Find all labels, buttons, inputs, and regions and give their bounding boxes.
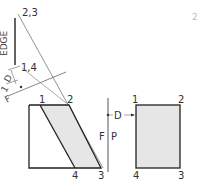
profile-dimension-d: D: [114, 110, 122, 121]
label-fold-f-aux: F: [3, 93, 12, 104]
fold-label-f: F: [99, 131, 105, 142]
label-1-4: 1,4: [21, 62, 37, 73]
front-label-1: 1: [39, 94, 45, 105]
cropped-label-fragment: 2: [192, 12, 197, 22]
plane-shaded-region: [40, 105, 101, 168]
fold-label-p: P: [111, 131, 117, 142]
edge-view-line: [18, 14, 103, 168]
profile-label-2: 2: [178, 94, 184, 105]
profile-label-1: 1: [132, 94, 138, 105]
label-edge: EDGE: [0, 30, 9, 56]
front-label-3: 3: [98, 170, 104, 181]
descriptive-geometry-diagram: 2,3 EDGE 1,4 D 1 F 1 2 4 3 F P D 1 2 4 3…: [0, 0, 197, 183]
dimension-arrow-icon: [107, 114, 109, 116]
label-aux-1: 1: [0, 84, 11, 94]
dimension-arrow-icon: [20, 86, 22, 88]
fold-line-aux: [8, 72, 66, 96]
dim-extension: [8, 66, 20, 70]
profile-label-4: 4: [133, 170, 139, 181]
arrow-right-icon: [131, 114, 135, 117]
profile-view-rect: [136, 105, 180, 168]
label-2-3: 2,3: [22, 7, 38, 18]
front-label-4: 4: [72, 170, 78, 181]
front-label-2: 2: [67, 94, 73, 105]
profile-label-3: 3: [178, 170, 184, 181]
